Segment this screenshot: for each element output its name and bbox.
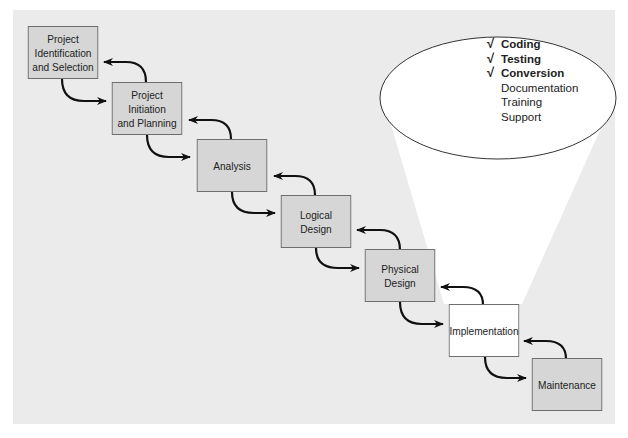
phase-label: Analysis xyxy=(213,159,251,173)
arrow-back-6 xyxy=(524,341,566,359)
callout-item-testing: √ Testing xyxy=(487,52,578,67)
arrow-forward-1 xyxy=(62,79,106,101)
arrow-back-1 xyxy=(104,62,146,82)
phase-project-identification: Project Identification and Selection xyxy=(28,26,98,79)
arrow-forward-4 xyxy=(316,248,359,268)
phase-label: Project Initiation and Planning xyxy=(117,88,176,130)
phase-analysis: Analysis xyxy=(197,139,267,192)
phase-physical-design: Physical Design xyxy=(365,249,435,302)
checkmark-icon: √ xyxy=(487,37,501,52)
arrow-back-4 xyxy=(357,230,400,250)
phase-maintenance: Maintenance xyxy=(532,358,602,411)
arrow-forward-3 xyxy=(232,192,275,213)
callout-item-coding: √ Coding xyxy=(487,37,578,52)
arrow-back-5 xyxy=(441,287,483,305)
arrow-forward-2 xyxy=(147,135,190,157)
phase-label: Implementation xyxy=(449,324,518,338)
phase-project-initiation: Project Initiation and Planning xyxy=(112,82,182,135)
callout-item-support: Support xyxy=(487,110,578,125)
phase-implementation: Implementation xyxy=(449,304,519,357)
arrow-back-3 xyxy=(274,176,315,195)
arrow-forward-5 xyxy=(400,302,443,324)
checkmark-icon: √ xyxy=(487,66,501,81)
implementation-callout-list: √ Coding √ Testing √ Conversion Document… xyxy=(487,37,578,125)
phase-label: Logical Design xyxy=(300,208,332,236)
phase-label: Physical Design xyxy=(381,262,419,290)
arrow-back-2 xyxy=(189,120,231,139)
callout-item-training: Training xyxy=(487,95,578,110)
phase-label: Maintenance xyxy=(538,378,596,392)
callout-item-conversion: √ Conversion xyxy=(487,66,578,81)
callout-item-documentation: Documentation xyxy=(487,81,578,96)
phase-label: Project Identification and Selection xyxy=(32,32,93,74)
phase-logical-design: Logical Design xyxy=(281,195,351,248)
arrow-forward-6 xyxy=(485,357,526,378)
checkmark-icon: √ xyxy=(487,52,501,67)
